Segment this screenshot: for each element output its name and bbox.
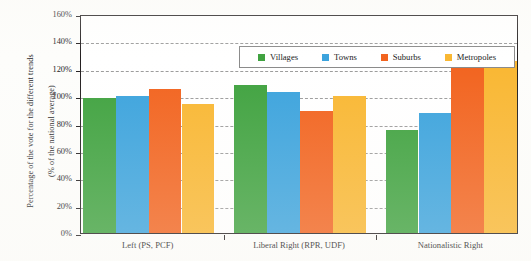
bar-villages-group-2 bbox=[234, 85, 267, 233]
legend-label: Towns bbox=[334, 52, 357, 62]
legend-swatch-icon bbox=[258, 54, 265, 61]
x-axis-tick-mark bbox=[376, 235, 377, 240]
y-axis-tick-label: 100% bbox=[26, 92, 72, 101]
y-axis-tick-mark bbox=[76, 235, 81, 236]
y-axis-tick-label: 20% bbox=[26, 202, 72, 211]
y-axis-tick-label: 120% bbox=[26, 65, 72, 74]
y-axis-title-line-2: (% of the national average) bbox=[47, 15, 58, 247]
legend-swatch-icon bbox=[381, 54, 388, 61]
legend-swatch-icon bbox=[322, 54, 329, 61]
y-axis-tick-label: 160% bbox=[26, 10, 72, 19]
legend-label: Villages bbox=[270, 52, 298, 62]
bar-suburbs-group-2 bbox=[300, 111, 333, 233]
y-axis-tick-label: 80% bbox=[26, 120, 72, 129]
bar-suburbs-group-3 bbox=[451, 63, 484, 233]
y-axis-title: Percentage of the vote for the different… bbox=[15, 15, 41, 247]
plot-area: VillagesTownsSuburbsMetropoles bbox=[80, 15, 518, 234]
y-axis-tick-label: 40% bbox=[26, 174, 72, 183]
bar-villages-group-1 bbox=[83, 98, 116, 234]
legend-item-suburbs: Suburbs bbox=[381, 52, 421, 62]
legend: VillagesTownsSuburbsMetropoles bbox=[239, 46, 515, 68]
bar-villages-group-3 bbox=[386, 130, 419, 233]
y-axis-tick-label: 60% bbox=[26, 147, 72, 156]
x-axis-category-label: Liberal Right (RPR, UDF) bbox=[253, 240, 345, 250]
legend-swatch-icon bbox=[445, 54, 452, 61]
bar-chart: Percentage of the vote for the different… bbox=[0, 0, 531, 261]
legend-label: Suburbs bbox=[393, 52, 421, 62]
bar-towns-group-1 bbox=[116, 96, 149, 233]
legend-item-towns: Towns bbox=[322, 52, 357, 62]
legend-label: Metropoles bbox=[457, 52, 496, 62]
y-axis-tick-label: 0% bbox=[26, 229, 72, 238]
legend-item-villages: Villages bbox=[258, 52, 298, 62]
x-axis-category-label: Nationalistic Right bbox=[418, 240, 483, 250]
legend-item-metropoles: Metropoles bbox=[445, 52, 496, 62]
bar-suburbs-group-1 bbox=[149, 89, 182, 233]
y-axis-tick-label: 140% bbox=[26, 37, 72, 46]
x-axis-tick-mark bbox=[224, 235, 225, 240]
bar-towns-group-2 bbox=[267, 92, 300, 233]
bar-metropoles-group-3 bbox=[484, 61, 517, 233]
bar-towns-group-3 bbox=[419, 113, 452, 233]
y-axis-title-line-1: Percentage of the vote for the different… bbox=[26, 15, 37, 247]
bar-metropoles-group-2 bbox=[333, 96, 366, 233]
x-axis-category-label: Left (PS, PCF) bbox=[122, 240, 173, 250]
bar-metropoles-group-1 bbox=[182, 104, 215, 233]
